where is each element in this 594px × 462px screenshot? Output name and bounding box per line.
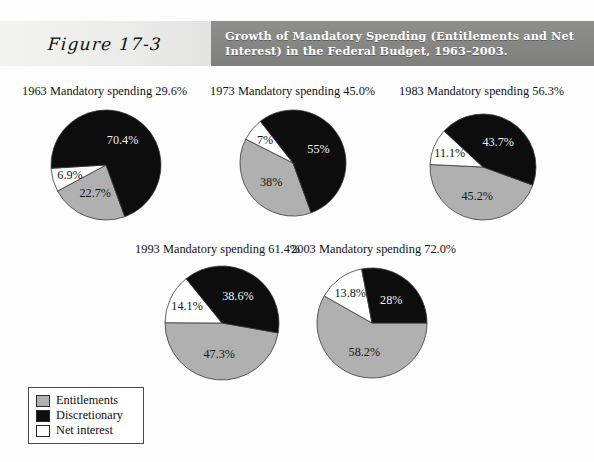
pie-chart-1993: 47.3%14.1%38.6% (159, 260, 285, 386)
legend-item-discretionary: Discretionary (36, 408, 136, 423)
pie-caption-1963: 1963 Mandatory spending 29.6% (22, 84, 187, 99)
legend-swatch-net-interest (36, 425, 50, 437)
legend-item-net-interest: Net interest (36, 423, 136, 438)
pie-value-label-entitlements: 58.2% (349, 345, 380, 359)
pie-value-label-discretionary: 55% (307, 142, 329, 156)
figure-title-panel: Growth of Mandatory Spending (Entitlemen… (211, 21, 594, 66)
pie-value-label-discretionary: 70.4% (107, 133, 138, 147)
pie-value-label-net-interest: 6.9% (57, 168, 82, 182)
pie-value-label-discretionary: 38.6% (222, 289, 253, 303)
pie-caption-1983: 1983 Mandatory spending 56.3% (399, 84, 564, 99)
pie-value-label-discretionary: 28% (380, 293, 402, 307)
figure-number-label: Figure 17-3 (48, 34, 163, 54)
figure-title: Growth of Mandatory Spending (Entitlemen… (225, 29, 575, 58)
pie-value-label-net-interest: 11.1% (434, 146, 465, 160)
pie-value-label-net-interest: 14.1% (171, 299, 202, 313)
pie-value-label-entitlements: 22.7% (79, 186, 110, 200)
legend-item-entitlements: Entitlements (36, 393, 136, 408)
legend-swatch-discretionary (36, 410, 50, 422)
figure-header: Figure 17-3 Growth of Mandatory Spending… (0, 21, 594, 66)
chart-legend: Entitlements Discretionary Net interest (28, 387, 144, 444)
legend-label-entitlements: Entitlements (56, 393, 118, 408)
pie-chart-1983: 45.2%11.1%43.7% (424, 108, 542, 226)
pie-value-label-entitlements: 47.3% (203, 347, 234, 361)
pie-value-label-entitlements: 45.2% (462, 189, 493, 203)
pie-chart-1973: 38%7%55% (234, 104, 352, 222)
pie-value-label-entitlements: 38% (260, 175, 282, 189)
figure-label-panel: Figure 17-3 (0, 21, 211, 66)
pie-value-label-net-interest: 13.8% (334, 286, 365, 300)
pie-caption-2003: 2003 Mandatory spending 72.0% (291, 242, 456, 257)
legend-label-net-interest: Net interest (56, 423, 113, 438)
pie-chart-2003: 58.2%13.8%28% (311, 262, 433, 384)
legend-label-discretionary: Discretionary (56, 408, 123, 423)
pie-value-label-discretionary: 43.7% (482, 135, 513, 149)
figure-container: Figure 17-3 Growth of Mandatory Spending… (0, 0, 594, 462)
pie-chart-1963: 22.7%6.9%70.4% (45, 104, 167, 226)
pie-caption-1993: 1993 Mandatory spending 61.4% (135, 242, 300, 257)
pie-caption-1973: 1973 Mandatory spending 45.0% (210, 84, 375, 99)
legend-swatch-entitlements (36, 395, 50, 407)
